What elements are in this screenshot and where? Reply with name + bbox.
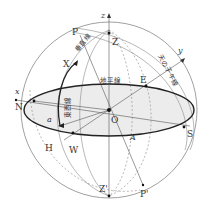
- x-axis-label: x: [15, 87, 20, 96]
- east-label: E: [140, 75, 147, 85]
- meridian-label: 天の子午線: [156, 53, 180, 88]
- horizon-label: 地平線: [100, 76, 121, 85]
- south-label: S: [187, 129, 193, 139]
- azimuth-label: A: [129, 133, 136, 142]
- celestial-sphere-diagram: z y x P Z X E N O S H W Z' P' a A 垂直線 天の…: [0, 0, 207, 217]
- pole-label: P: [72, 27, 78, 37]
- west-label: W: [69, 145, 79, 155]
- zenith-label: Z: [112, 37, 118, 47]
- north-label: N: [15, 102, 23, 112]
- pole-opposite-label: P': [140, 189, 149, 199]
- star-label: X: [63, 59, 70, 69]
- z-arrow-icon: [107, 13, 111, 18]
- z-axis-label: z: [100, 11, 106, 20]
- prime-vertical-label: 東西線: [63, 97, 72, 118]
- y-axis-label: y: [177, 46, 183, 55]
- hour-point-label: H: [45, 143, 53, 153]
- observer-label: O: [111, 115, 118, 125]
- nadir-label: Z': [99, 184, 108, 194]
- altitude-label: a: [47, 115, 52, 124]
